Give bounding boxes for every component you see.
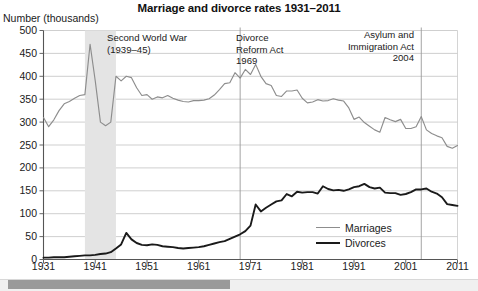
x-axis-tick-1961: 1961 [177, 261, 221, 272]
legend-item-marriages: Marriages [316, 220, 392, 235]
x-axis-tick-2011: 2011 [436, 261, 478, 272]
legend-swatch-divorces-icon [316, 242, 340, 244]
y-axis-tick-450: 450 [7, 48, 37, 58]
y-axis-tick-50: 50 [7, 231, 37, 241]
annotation-divorce-reform-act: Divorce Reform Act 1969 [236, 32, 283, 67]
annotation-second-world-war: Second World War (1939–45) [107, 32, 187, 55]
x-axis-tick-2001: 2001 [384, 261, 428, 272]
x-axis-tick-1981: 1981 [280, 261, 324, 272]
y-axis-tick-200: 200 [7, 162, 37, 172]
x-axis-tick-1991: 1991 [332, 261, 376, 272]
y-axis-tick-300: 300 [7, 117, 37, 127]
y-axis-tick-400: 400 [7, 71, 37, 81]
legend-label-divorces: Divorces [345, 237, 386, 249]
y-axis-tick-500: 500 [7, 25, 37, 35]
y-axis-tick-250: 250 [7, 140, 37, 150]
legend-label-marriages: Marriages [345, 222, 392, 234]
y-axis-tick-100: 100 [7, 208, 37, 218]
annotation-asylum-immigration-act: Asylum and Immigration Act 2004 [330, 29, 414, 64]
legend-swatch-marriages-icon [316, 227, 340, 228]
legend-item-divorces: Divorces [316, 235, 392, 250]
horizontal-scrollbar-thumb[interactable] [8, 280, 230, 289]
chart-legend: Marriages Divorces [316, 220, 392, 250]
x-axis-tick-1931: 1931 [22, 261, 66, 272]
y-axis-tick-150: 150 [7, 185, 37, 195]
wwii-shaded-band [85, 31, 116, 260]
x-axis-tick-1951: 1951 [125, 261, 169, 272]
y-axis-tick-350: 350 [7, 94, 37, 104]
x-axis-tick-1971: 1971 [229, 261, 273, 272]
x-axis-tick-1941: 1941 [73, 261, 117, 272]
